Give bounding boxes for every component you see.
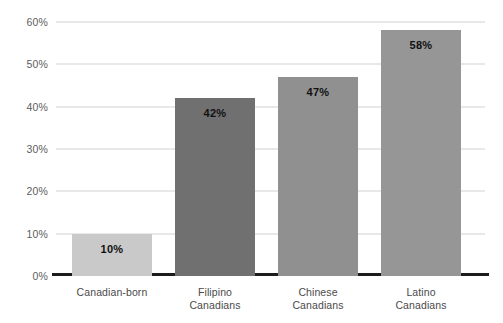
bar-value-label: 10% <box>72 243 152 255</box>
bar: 10% <box>72 234 152 276</box>
bar-value-label: 42% <box>175 107 255 119</box>
category-label-line: Canadians <box>359 299 483 312</box>
bar: 58% <box>381 30 461 276</box>
category-label-line: Latino <box>359 286 483 299</box>
x-axis-category-label: LatinoCanadians <box>359 286 483 312</box>
bar: 42% <box>175 98 255 276</box>
plot-area: 10%42%47%58% <box>0 0 503 323</box>
bar-value-label: 47% <box>278 86 358 98</box>
bar: 47% <box>278 77 358 276</box>
bar-value-label: 58% <box>381 39 461 51</box>
bar-chart: 0%10%20%30%40%50%60% 10%42%47%58% Canadi… <box>0 0 503 323</box>
